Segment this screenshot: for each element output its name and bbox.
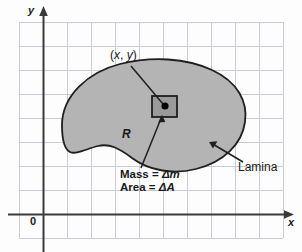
- lamina-figure: y x 0 R (x, y) Lamina Mass = Δm Area = Δ…: [0, 0, 302, 252]
- point-x-symbol: x: [114, 48, 120, 62]
- area-line: Area = ΔA: [120, 181, 180, 194]
- lamina-callout-label: Lamina: [238, 161, 277, 174]
- x-axis-label: x: [288, 216, 294, 228]
- area-symbol: ΔA: [159, 181, 175, 193]
- point-coordinates-label: (x, y): [110, 49, 137, 62]
- centroid-point-dot: [161, 102, 168, 109]
- origin-label: 0: [30, 215, 36, 227]
- mass-symbol: Δm: [162, 168, 180, 180]
- mass-area-annotation: Mass = Δm Area = ΔA: [120, 168, 180, 194]
- mass-line: Mass = Δm: [120, 168, 180, 181]
- figure-canvas: [0, 0, 302, 252]
- mass-text: Mass =: [120, 168, 162, 180]
- region-label-R: R: [122, 128, 131, 141]
- y-axis-arrowhead: [39, 6, 48, 16]
- y-axis-label: y: [28, 4, 34, 16]
- point-y-symbol: y: [127, 48, 133, 62]
- area-text: Area =: [120, 181, 159, 193]
